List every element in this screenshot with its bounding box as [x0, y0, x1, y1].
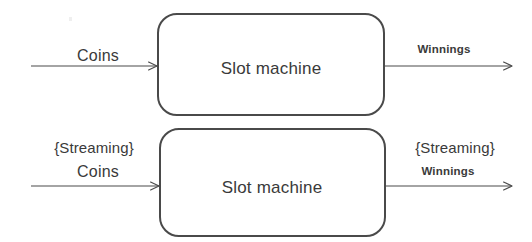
diagram-canvas: Slot machine Coins Winnings Slot machine… [0, 0, 532, 242]
input-label-batch: Coins [77, 48, 119, 64]
box-label-streaming: Slot machine [222, 179, 323, 196]
scan-speck [69, 17, 72, 21]
output-qualifier-streaming: {Streaming} [415, 140, 494, 155]
input-qualifier-streaming: {Streaming} [54, 140, 133, 155]
input-label-streaming: Coins [77, 164, 119, 180]
output-label-batch: Winnings [417, 44, 470, 56]
box-label-batch: Slot machine [221, 60, 322, 77]
diagram-graphics [0, 0, 532, 242]
output-label-streaming: Winnings [421, 166, 474, 178]
